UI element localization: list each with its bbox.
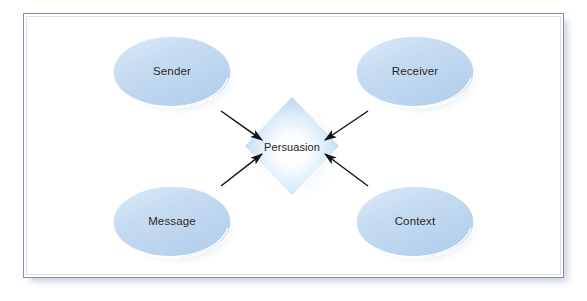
node-message[interactable] — [113, 186, 231, 258]
diagram-canvas — [24, 14, 565, 279]
node-receiver[interactable] — [356, 36, 474, 108]
diagram-frame: Sender Receiver Message Context Persuasi… — [23, 13, 564, 278]
node-context[interactable] — [356, 186, 474, 258]
diagram-stage: Sender Receiver Message Context Persuasi… — [24, 14, 565, 279]
arrow-sender-to-persuasion — [221, 111, 262, 140]
figure-root: Sender Receiver Message Context Persuasi… — [0, 0, 587, 301]
node-sender[interactable] — [113, 36, 231, 108]
node-shape-layer — [113, 36, 474, 258]
